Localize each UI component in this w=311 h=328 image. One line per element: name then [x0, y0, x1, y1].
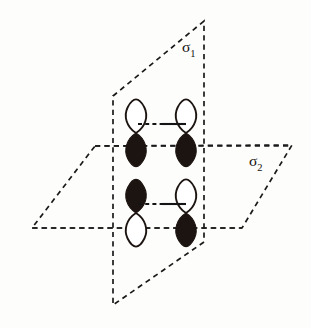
orbital-top-left-upper-lobe: [126, 99, 146, 133]
plane-label-sigma-2: σ2: [249, 152, 263, 173]
sigma-2-subscript: 2: [257, 162, 262, 173]
orbital-top-right: [176, 99, 196, 166]
orbital-top-right-upper-lobe: [176, 99, 196, 133]
orbital-top-left: [126, 99, 146, 166]
orbital-top-left-lower-lobe: [126, 133, 146, 167]
orbital-symmetry-figure: σ1 σ2: [0, 0, 311, 328]
orbital-bottom-right-lower-lobe: [176, 213, 196, 247]
orbital-bottom-right-upper-lobe: [176, 179, 196, 213]
orbital-bottom-left-upper-lobe: [126, 179, 146, 213]
sigma-1-subscript: 1: [190, 48, 195, 59]
orbital-bottom-left: [126, 179, 146, 246]
orbital-top-right-lower-lobe: [176, 133, 196, 167]
orbital-bottom-right: [176, 179, 196, 246]
plane-label-sigma-1: σ1: [182, 38, 196, 59]
figure-canvas: σ1 σ2: [0, 0, 311, 328]
orbital-bottom-left-lower-lobe: [126, 213, 146, 247]
